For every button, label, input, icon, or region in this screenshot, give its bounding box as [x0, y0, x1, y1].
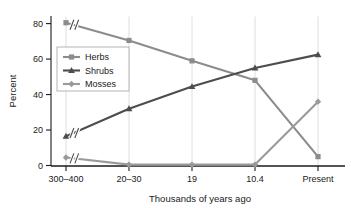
chart-container: 020406080 300–40020–301910.4Present Perc…: [0, 0, 351, 208]
x-tick-label: Present: [302, 174, 334, 184]
line-chart: 020406080 300–40020–301910.4Present Perc…: [0, 0, 351, 208]
y-tick-label: 80: [33, 19, 43, 29]
y-tick-label: 60: [33, 54, 43, 64]
x-tick-label: 10.4: [246, 174, 264, 184]
data-point-herbs: [315, 154, 320, 159]
data-point-herbs: [126, 38, 131, 43]
x-axis-title: Thousands of years ago: [149, 193, 251, 204]
data-point-herbs: [252, 78, 257, 83]
x-tick-label: 19: [187, 174, 197, 184]
legend-label-shrubs: Shrubs: [85, 66, 114, 76]
y-tick-label: 0: [38, 161, 43, 171]
data-point-herbs: [63, 20, 68, 25]
x-tick-label: 300–400: [48, 174, 83, 184]
y-axis-title: Percent: [7, 74, 18, 107]
x-tick-label: 20–30: [116, 174, 141, 184]
y-tick-label: 40: [33, 90, 43, 100]
data-point-herbs: [189, 58, 194, 63]
legend-marker-herbs: [69, 54, 74, 59]
legend-label-herbs: Herbs: [85, 52, 110, 62]
chart-legend: HerbsShrubsMosses: [57, 47, 129, 91]
legend-label-mosses: Mosses: [85, 79, 117, 89]
y-tick-label: 20: [33, 125, 43, 135]
